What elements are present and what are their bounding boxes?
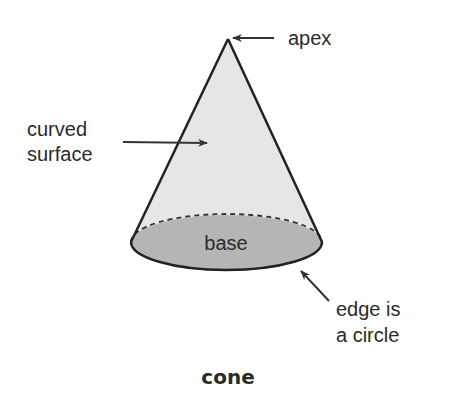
curved-surface-arrow — [123, 142, 207, 143]
edge-label-line1: edge is — [336, 298, 401, 320]
apex-label: apex — [288, 27, 331, 49]
diagram-title: cone — [201, 365, 254, 389]
curved-surface-label-line2: surface — [27, 143, 93, 165]
base-label: base — [204, 232, 247, 254]
edge-label-line2: a circle — [336, 324, 399, 346]
edge-arrow — [301, 271, 329, 301]
curved-surface-label-line1: curved — [27, 118, 87, 140]
cone-diagram: apex curved surface base edge is a circl… — [0, 0, 457, 404]
